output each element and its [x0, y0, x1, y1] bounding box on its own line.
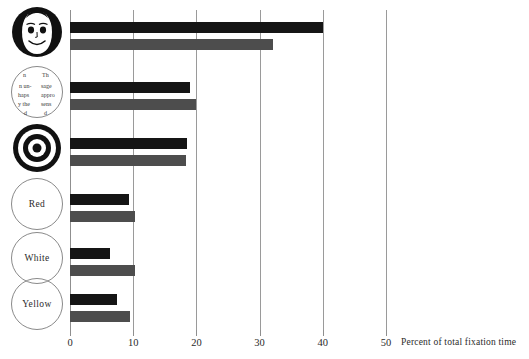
tick-label-30: 30 — [254, 337, 265, 348]
gridline-0 — [70, 10, 71, 330]
bar-dark-red — [70, 194, 129, 205]
bar-dark-yellow — [70, 294, 117, 305]
svg-text:y the: y the — [18, 101, 30, 107]
category-label-red: Red — [12, 199, 62, 209]
bar-light-face — [70, 39, 273, 50]
gridline-50 — [386, 10, 387, 330]
category-circle-white: White — [11, 232, 63, 284]
category-label-yellow: Yellow — [12, 299, 62, 309]
category-circle-yellow: Yellow — [11, 278, 63, 330]
svg-text:n un-: n un- — [19, 83, 32, 89]
bar-light-white — [70, 265, 135, 276]
bar-dark-text-circle — [70, 82, 190, 93]
tick-label-0: 0 — [67, 337, 72, 348]
svg-text:appro: appro — [41, 92, 55, 98]
bar-dark-white — [70, 248, 110, 259]
bar-light-text-circle — [70, 99, 196, 110]
gridline-20 — [196, 10, 197, 330]
svg-text:n: n — [23, 72, 26, 78]
tick-label-50: 50 — [381, 337, 392, 348]
tick-label-10: 10 — [128, 337, 139, 348]
fixation-time-bar-chart: n Th n un- sage haps appro y the sens d … — [0, 0, 529, 359]
tick-mark-0 — [70, 330, 71, 336]
bullseye-target-icon — [11, 122, 63, 174]
x-axis-title: Percent of total fixation time — [401, 337, 516, 347]
bar-light-bullseye — [70, 155, 186, 166]
tick-mark-40 — [323, 330, 324, 336]
svg-text:Th: Th — [42, 72, 49, 78]
svg-text:haps: haps — [18, 92, 30, 98]
bar-light-yellow — [70, 311, 130, 322]
svg-text:d: d — [44, 110, 47, 116]
gridline-30 — [260, 10, 261, 330]
svg-text:d: d — [24, 110, 27, 116]
plot-area — [70, 10, 386, 330]
bar-light-red — [70, 211, 135, 222]
bar-dark-bullseye — [70, 138, 187, 149]
svg-text:sage: sage — [41, 83, 52, 89]
smiling-face-icon — [11, 6, 63, 58]
category-label-white: White — [12, 253, 62, 263]
tick-mark-30 — [260, 330, 261, 336]
tick-label-20: 20 — [191, 337, 202, 348]
tick-mark-10 — [133, 330, 134, 336]
svg-text:sens: sens — [41, 101, 52, 107]
category-icon-column: n Th n un- sage haps appro y the sens d … — [0, 0, 70, 330]
tick-label-40: 40 — [318, 337, 329, 348]
gridline-40 — [323, 10, 324, 330]
text-fragment-circle-icon: n Th n un- sage haps appro y the sens d … — [11, 66, 63, 118]
category-circle-red: Red — [11, 178, 63, 230]
bar-dark-face — [70, 22, 323, 33]
tick-mark-20 — [196, 330, 197, 336]
gridline-10 — [133, 10, 134, 330]
tick-mark-50 — [386, 330, 387, 336]
